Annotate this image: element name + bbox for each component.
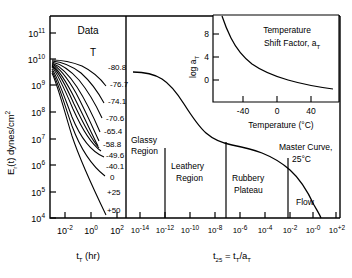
y-tick-7-exp: 4 — [41, 212, 45, 219]
y-tick-6-exp: 5 — [41, 186, 45, 193]
svg-text:10-2: 10-2 — [57, 224, 73, 236]
y-tick-2-exp: 9 — [41, 79, 45, 86]
region-glassy-line2: Region — [131, 146, 158, 156]
master-curve-label-line1: Master Curve, — [279, 142, 332, 152]
temp-value-4: -65.4 — [104, 127, 123, 136]
y-axis-title-sup: 2 — [4, 110, 11, 114]
inset-y-tick-0: 8 — [204, 29, 209, 39]
temp-value-5: -58.8 — [103, 140, 122, 149]
temp-value-2: -74.1 — [108, 97, 127, 106]
y-axis-title: Er(t) dynes/cm2 — [4, 110, 18, 175]
lx-tick-0-exp: -2 — [67, 224, 73, 231]
y-tick-4-mantissa: 10 — [31, 135, 41, 145]
left-x-axis-tick-labels: 10-2 100 102 — [57, 224, 124, 236]
rx-title-sub3: T — [247, 257, 251, 263]
rx-tick-0-exp: -14 — [140, 224, 150, 231]
y-tick-1-exp: 10 — [38, 53, 46, 60]
left-x-axis-title-rest: (hr) — [85, 250, 100, 261]
svg-text:10-2: 10-2 — [283, 224, 298, 236]
rx-tick-5-exp: -4 — [267, 224, 273, 231]
inset-title-line1: Temperature — [263, 25, 311, 35]
lx-tick-2-exp: 2 — [120, 224, 124, 231]
right-x-axis-tick-labels: 10-14 10-12 10-10 10-8 10-6 10-4 10-2 10… — [131, 224, 346, 236]
svg-text:10-6: 10-6 — [233, 224, 248, 236]
rx-tick-4-exp: -6 — [242, 224, 248, 231]
rx-tick-8-exp: +2 — [338, 224, 346, 231]
region-rubbery-line2: Plateau — [234, 185, 263, 195]
figure-svg: 1011 1010 109 108 107 106 105 104 Er(t) … — [0, 0, 352, 278]
inset-y-title-sub: T — [194, 56, 200, 60]
inset-x-tick-1: 0 — [275, 106, 280, 116]
lx-tick-0-mantissa: 10 — [57, 226, 67, 236]
inset-title-line2-main: Shift Factor, a — [264, 38, 317, 48]
inset-x-tick-2: 40 — [306, 106, 316, 116]
inset-y-axis-title: log aT — [188, 56, 200, 78]
svg-text:10-0: 10-0 — [306, 224, 321, 236]
y-axis-title-rest: (t) dynes/cm — [5, 114, 16, 166]
inset-y-tick-labels: 8 4 0 — [204, 29, 209, 85]
svg-text:1011: 1011 — [28, 27, 45, 39]
y-tick-3-exp: 8 — [41, 106, 45, 113]
svg-text:Er(t) dynes/cm2: Er(t) dynes/cm2 — [4, 110, 18, 175]
inset-y-tick-1: 4 — [204, 52, 209, 62]
lx-tick-1-mantissa: 10 — [84, 226, 94, 236]
svg-text:100: 100 — [84, 224, 98, 236]
temp-value-9: +25 — [107, 188, 121, 197]
svg-text:10-14: 10-14 — [131, 224, 150, 236]
temp-value-0: -80.8 — [108, 63, 127, 72]
right-x-axis-ticks — [140, 212, 336, 218]
rx-tick-6-exp: -2 — [292, 224, 298, 231]
y-tick-4-exp: 7 — [41, 133, 45, 140]
master-curve-label-line2: 25°C — [292, 154, 311, 164]
inset-title-line2-sub: T — [316, 44, 320, 50]
svg-text:105: 105 — [31, 186, 45, 198]
data-curves — [52, 60, 106, 215]
svg-text:104: 104 — [31, 212, 45, 224]
temperature-legend-header: T — [90, 47, 96, 58]
svg-text:108: 108 — [31, 106, 45, 118]
region-leathery-line1: Leathery — [171, 161, 205, 171]
svg-text:10-4: 10-4 — [258, 224, 273, 236]
y-tick-1-mantissa: 10 — [28, 55, 38, 65]
svg-text:107: 107 — [31, 133, 45, 145]
temperature-legend-values: -80.8 -76.7 -74.1 -70.6 -65.4 -58.8 -49.… — [103, 63, 129, 215]
temp-value-1: -76.7 — [110, 80, 129, 89]
svg-text:10+2: 10+2 — [329, 224, 346, 236]
data-panel-title: Data — [77, 25, 99, 36]
region-glassy-line1: Glassy — [131, 135, 158, 145]
inset-x-tick-0: -40 — [237, 106, 250, 116]
rx-tick-7-exp: -0 — [315, 224, 321, 231]
y-tick-0-mantissa: 10 — [28, 29, 38, 39]
region-rubbery-line1: Rubbery — [232, 173, 265, 183]
temp-value-6: -49.6 — [106, 151, 125, 160]
master-curve-annotation: Master Curve, 25°C — [279, 142, 332, 164]
y-tick-2-mantissa: 10 — [31, 81, 41, 91]
lx-tick-1-exp: 0 — [94, 224, 98, 231]
region-leathery-line2: Region — [176, 173, 203, 183]
inset-shift-factor: 8 4 0 log aT -40 0 40 Temperature (°C) T… — [188, 15, 339, 130]
temp-value-8: 0 — [110, 173, 115, 182]
lx-tick-2-mantissa: 10 — [110, 226, 120, 236]
y-tick-6-mantissa: 10 — [31, 188, 41, 198]
y-tick-5-mantissa: 10 — [31, 161, 41, 171]
y-tick-3-mantissa: 10 — [31, 108, 41, 118]
figure-root: 1011 1010 109 108 107 106 105 104 Er(t) … — [0, 0, 352, 278]
temp-value-7: -40.1 — [106, 162, 125, 171]
rx-title-eq: = t — [222, 250, 236, 261]
left-x-axis-title: tT (hr) — [76, 250, 100, 263]
svg-text:1010: 1010 — [28, 53, 46, 65]
svg-text:10-10: 10-10 — [181, 224, 200, 236]
y-tick-0-exp: 11 — [38, 27, 45, 34]
right-x-axis-title: t25 = tT/aT — [213, 250, 251, 263]
svg-text:10-12: 10-12 — [156, 224, 175, 236]
rx-tick-3-exp: -8 — [217, 224, 223, 231]
region-flow-line1: Flow — [296, 197, 315, 207]
inset-x-axis-title: Temperature (°C) — [248, 120, 313, 130]
svg-text:109: 109 — [31, 79, 45, 91]
y-tick-7-mantissa: 10 — [31, 214, 41, 224]
y-tick-5-exp: 6 — [41, 159, 45, 166]
inset-y-title-main: log a — [188, 59, 198, 78]
rx-tick-1-exp: -12 — [165, 224, 175, 231]
inset-y-tick-2: 0 — [204, 75, 209, 85]
inset-x-tick-labels: -40 0 40 — [237, 106, 316, 116]
